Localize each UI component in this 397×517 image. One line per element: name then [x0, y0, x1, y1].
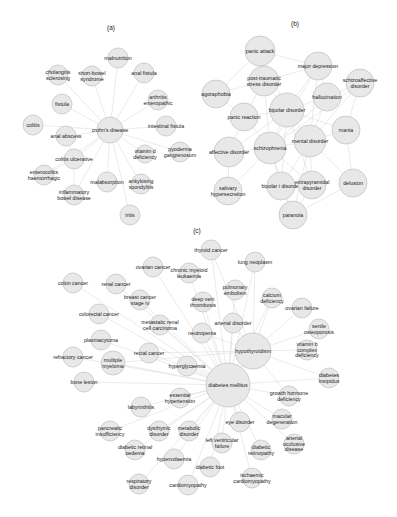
node-label: colitis ulcerative: [55, 156, 92, 162]
node-bipolar: bipolar disorder: [269, 93, 306, 127]
node-label: sclerosing: [46, 75, 70, 81]
node-label: failure: [215, 443, 229, 449]
node-label: disease: [285, 446, 303, 452]
node-salivary: salivaryhypersecretion: [211, 177, 246, 205]
node-aod: arterialocclusivedisease: [283, 434, 305, 454]
node-label: colon cancer: [58, 280, 88, 286]
node-majdep: major depression: [298, 52, 339, 80]
node-ovfail: ovarian failure: [285, 298, 318, 318]
node-plasma: plasmacytoma: [84, 330, 118, 350]
node-neutro: neutropenia: [188, 323, 216, 343]
node-label: degeneration: [267, 419, 298, 425]
panel-b-label: (b): [291, 20, 299, 28]
node-label: retinopathy: [248, 450, 275, 456]
node-metabolic: metabolicdisorder: [178, 421, 201, 441]
node-ibd: inflammatorybowel disease: [57, 185, 91, 205]
node-label: delusion: [343, 180, 363, 186]
node-label: cardiomyopathy: [169, 482, 207, 488]
node-label: colorectal cancer: [79, 311, 119, 317]
node-schizo: schizophrenia: [254, 132, 287, 164]
node-refract: refractory cancer: [53, 347, 93, 367]
node-dre: diabetic retinaloedema: [118, 440, 152, 460]
node-vitb: vitamin bcomplexdeficiency: [295, 340, 319, 360]
node-intfis: intestinal fistula: [148, 116, 184, 136]
node-label: mania: [339, 127, 353, 133]
node-label: oedema: [125, 450, 144, 456]
node-label: crohn's disease: [92, 127, 129, 133]
node-analfis: anal fistula: [131, 63, 156, 83]
node-label: insipidus: [319, 378, 340, 384]
node-vitd: vitamin ddeficiency: [133, 145, 157, 163]
node-arthritis: arthritisenteropathic: [143, 90, 173, 110]
node-label: disorder: [129, 484, 148, 490]
node-halluc: hallucination: [312, 83, 342, 111]
node-label: lung neoplasm: [238, 259, 273, 265]
node-label: diabetes mellitus: [208, 382, 248, 388]
node-label: embolism: [224, 290, 247, 296]
node-agora: agoraphobia: [201, 80, 231, 108]
node-sbs: short-bowelsyndrome: [78, 66, 105, 86]
node-label: hypersecretion: [211, 191, 246, 197]
node-label: insufficiency: [96, 431, 125, 437]
node-label: osteoporosis: [304, 329, 334, 335]
node-label: malabsorption: [90, 179, 123, 185]
network-figure: crohn's diseasemalnutritioncholangitissc…: [0, 0, 397, 517]
node-label: arterial disorder: [215, 320, 252, 326]
node-ankyl: ankylosingspondylitis: [128, 174, 153, 194]
node-renalc: renal cancer: [101, 274, 130, 294]
node-bcs4: breast cancerstage iv: [124, 290, 156, 310]
node-pancreatic: pancreaticinsufficiency: [96, 421, 125, 441]
node-calcium: calciumdeficiency: [260, 288, 284, 308]
node-label: major depression: [298, 63, 339, 69]
node-label: paranoia: [283, 212, 304, 218]
node-label: iritis: [125, 212, 135, 218]
node-label: bowel disease: [57, 195, 91, 201]
node-resp: respiratorydisorder: [126, 474, 151, 494]
panel-b-nodes: panic attackmajor depressionpost-traumat…: [201, 36, 377, 229]
node-label: labyrinthitis: [128, 404, 155, 410]
node-label: hypothyroidism: [235, 348, 271, 354]
node-colitis: colitis: [23, 115, 43, 135]
node-label: anal abscess: [51, 133, 82, 139]
node-label: ovarian cancer: [136, 264, 171, 270]
panel-a-crohns-network: crohn's diseasemalnutritioncholangitissc…: [23, 24, 197, 225]
node-label: bipolar disorder: [269, 107, 306, 113]
node-fistula: fistula: [52, 94, 72, 114]
node-cml: chronic myeloidleukaemia: [171, 263, 208, 283]
node-label: eye disorder: [225, 419, 254, 425]
panel-c-nodes: diabetes mellitushypothyroidismthyroid c…: [53, 240, 340, 495]
node-chol: cholangitissclerosing: [45, 65, 70, 85]
node-ghd: growth hormonedeficiency: [270, 386, 308, 406]
node-dretino: diabeticretinopathy: [248, 440, 275, 460]
node-ptsd: post-traumaticstress disorder: [247, 66, 282, 96]
node-senile: senileosteoporosis: [304, 319, 334, 339]
node-label: cell carcinoma: [143, 325, 177, 331]
panel-c-diabetes-network: diabetes mellitushypothyroidismthyroid c…: [53, 227, 340, 495]
node-dvt: deep veinthrombosis: [190, 292, 216, 312]
node-hypo: hypothyroidism: [235, 333, 271, 369]
panel-a-label: (a): [107, 24, 115, 32]
node-label: anal fistula: [131, 70, 156, 76]
node-ischcardio: ischaemiccardiomyopathy: [233, 468, 271, 488]
node-label: deficiency: [277, 396, 301, 402]
node-hypervol: hypervolaemia: [157, 449, 192, 469]
panel-a-nodes: crohn's diseasemalnutritioncholangitissc…: [23, 48, 197, 225]
node-dfoot: diabetic foot: [196, 457, 225, 477]
node-label: deficiency: [260, 298, 284, 304]
node-label: rectal cancer: [134, 350, 165, 356]
node-extrapyr: extrapyramidaldisorder: [295, 171, 330, 199]
node-malnutrition: malnutrition: [104, 48, 131, 68]
node-label: mental disorder: [292, 138, 329, 144]
node-label: refractory cancer: [53, 354, 93, 360]
node-hyperg: hyperglycaemia: [168, 356, 205, 376]
node-label: stress disorder: [247, 81, 282, 87]
node-label: disorder: [302, 185, 321, 191]
node-rectal: rectal cancer: [134, 343, 165, 363]
node-label: diabetic foot: [196, 464, 225, 470]
node-label: disorder: [350, 83, 369, 89]
node-label: disorder: [179, 431, 198, 437]
node-mm: multiplemyeloma: [101, 351, 125, 375]
node-cardio: cardiomyopathy: [169, 475, 207, 495]
panel-b-mental-disorder-network: panic attackmajor depressionpost-traumat…: [201, 20, 377, 229]
node-label: gangrenosum: [164, 152, 197, 158]
